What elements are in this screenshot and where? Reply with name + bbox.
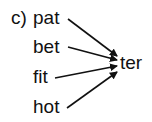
arrow-hot-to-ter bbox=[67, 72, 117, 108]
arrow-pat-to-ter bbox=[68, 19, 117, 56]
arrow-bet-to-ter bbox=[68, 47, 117, 60]
arrow-fit-to-ter bbox=[55, 66, 117, 78]
arrows bbox=[0, 0, 152, 122]
